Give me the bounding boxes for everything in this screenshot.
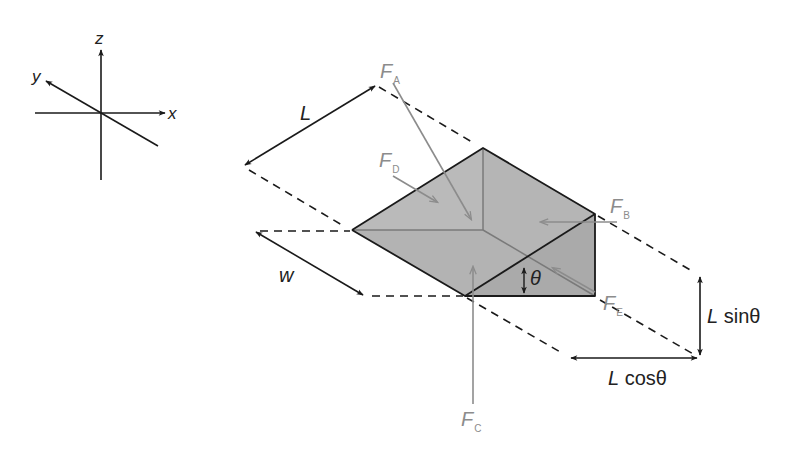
vertical-height-label: L sinθ bbox=[707, 305, 760, 327]
width-dimension-arrow bbox=[256, 232, 363, 295]
coordinate-axes: z x y bbox=[31, 29, 177, 180]
force-e-label: FE bbox=[603, 292, 623, 318]
force-b-label: FB bbox=[610, 195, 630, 221]
length-dimension-arrow bbox=[245, 86, 375, 165]
x-axis-label: x bbox=[167, 104, 177, 123]
angle-label: θ bbox=[530, 267, 541, 289]
force-c-label: FC bbox=[461, 408, 481, 434]
wedge-force-diagram: z x y L w θ bbox=[0, 0, 794, 451]
force-a-label: FA bbox=[380, 60, 400, 86]
length-label: L bbox=[300, 102, 311, 124]
force-d-label: FD bbox=[379, 149, 399, 175]
width-label: w bbox=[279, 264, 295, 286]
z-axis-label: z bbox=[94, 29, 104, 48]
y-axis-label: y bbox=[31, 67, 42, 86]
horizontal-run-label: L cosθ bbox=[608, 367, 667, 389]
